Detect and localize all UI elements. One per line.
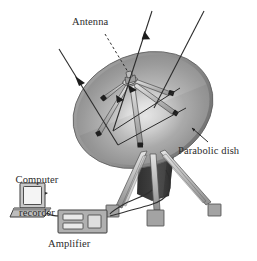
label-computer-recorder: Computer recorder bbox=[6, 152, 68, 240]
label-antenna: Antenna bbox=[72, 16, 108, 27]
label-computer-recorder-line2: recorder bbox=[6, 207, 68, 218]
label-amplifier: Amplifier bbox=[48, 238, 90, 249]
tripod-feet bbox=[106, 204, 221, 226]
label-computer-recorder-line1: Computer bbox=[6, 174, 68, 185]
diagram-canvas: Antenna Parabolic dish Computer recorder… bbox=[0, 0, 257, 261]
label-parabolic-dish: Parabolic dish bbox=[178, 145, 239, 156]
